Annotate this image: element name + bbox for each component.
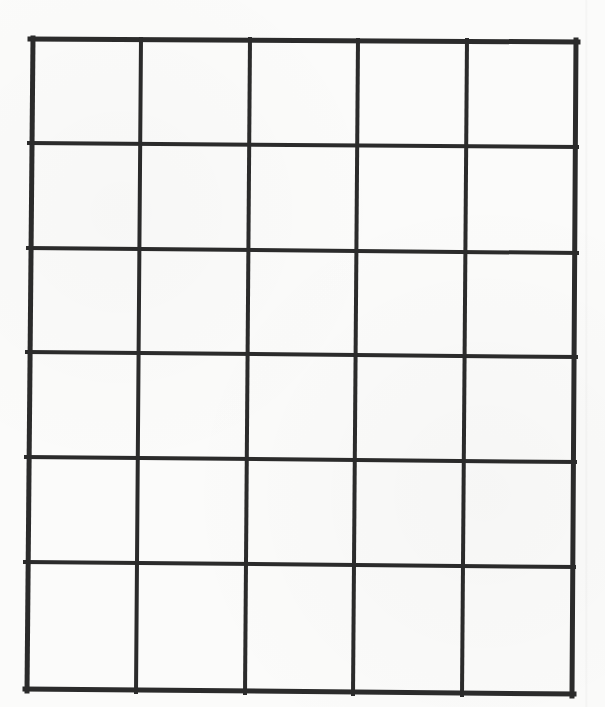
row-divider-line xyxy=(26,457,575,462)
outer-border-line xyxy=(25,689,574,694)
row-divider-line xyxy=(29,143,577,147)
row-divider-line xyxy=(25,562,574,567)
row-divider-line xyxy=(28,248,577,253)
outer-border-line xyxy=(572,40,576,696)
vertical-grid-lines xyxy=(27,38,576,696)
outer-border-line xyxy=(27,38,33,691)
blank-grid xyxy=(0,0,605,707)
column-divider-line xyxy=(136,39,141,692)
row-divider-line xyxy=(27,352,576,357)
outer-border-line xyxy=(30,39,578,42)
column-divider-line xyxy=(353,40,358,694)
horizontal-grid-lines xyxy=(25,39,578,694)
grid-page xyxy=(0,0,605,707)
column-divider-line xyxy=(245,39,250,693)
column-divider-line xyxy=(462,40,467,695)
